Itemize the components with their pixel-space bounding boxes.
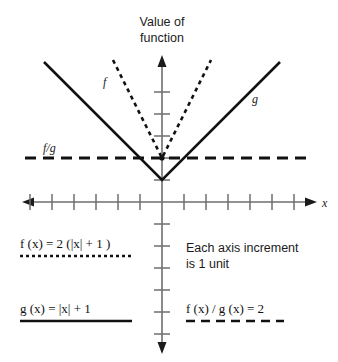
- y-axis-title-line1: Value of: [140, 15, 185, 29]
- graph-canvas: Value of function: [0, 0, 338, 362]
- y-axis-title-line2: function: [140, 31, 184, 45]
- legend-g-text: g (x) = |x| + 1: [20, 301, 91, 316]
- legend-ratio-text: f (x) / g (x) = 2: [186, 301, 264, 316]
- legend-f-text: f (x) = 2 (|x| + 1 ): [20, 236, 110, 251]
- axis-increment-note-line2: is 1 unit: [186, 257, 230, 271]
- axis-increment-note-line1: Each axis increment: [186, 241, 299, 255]
- ratio-line-label: f/g: [43, 141, 56, 155]
- function-graph-figure: Value of function: [0, 0, 338, 362]
- y-axis-arrow-down: [158, 342, 167, 354]
- f-vertex-dot: [159, 155, 164, 160]
- x-axis-label: x: [321, 196, 328, 210]
- x-axis-arrow-right: [305, 198, 317, 207]
- y-axis: [154, 55, 170, 354]
- legend-entry-f: f (x) = 2 (|x| + 1 ): [20, 236, 132, 256]
- x-axis-arrow-left: [22, 198, 34, 207]
- x-axis: x: [22, 194, 328, 210]
- curve-label-g: g: [252, 92, 258, 106]
- legend-entry-ratio: f (x) / g (x) = 2: [186, 301, 284, 321]
- curve-label-f: f: [103, 75, 108, 89]
- legend-entry-g: g (x) = |x| + 1: [20, 301, 132, 321]
- y-axis-arrow-up: [158, 55, 167, 67]
